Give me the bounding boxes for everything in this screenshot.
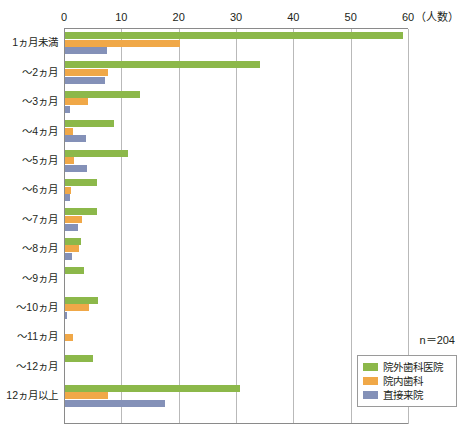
bar-5-2 xyxy=(65,194,70,201)
gridline-2 xyxy=(179,29,180,424)
bar-2-0 xyxy=(65,91,140,98)
gridline-3 xyxy=(236,29,237,424)
gridline-4 xyxy=(293,29,294,424)
bar-chart: 0102030405060（人数） 1ヵ月未満～2ヵ月～3ヵ月～4ヵ月～5ヵ月～… xyxy=(0,0,467,432)
category-label-0: 1ヵ月未満 xyxy=(0,36,58,48)
category-label-11: ～12ヵ月 xyxy=(0,360,58,372)
x-tick-label-2: 20 xyxy=(173,10,185,24)
category-label-4: ～5ヵ月 xyxy=(0,154,58,166)
bar-1-0 xyxy=(65,61,260,68)
legend-item-2: 直接来院 xyxy=(363,388,451,402)
x-axis-tick-labels: 0102030405060（人数） xyxy=(0,10,467,26)
bar-12-1 xyxy=(65,392,108,399)
x-tick-label-4: 40 xyxy=(287,10,299,24)
bar-0-0 xyxy=(65,32,403,39)
bar-9-0 xyxy=(65,297,98,304)
sample-size-note: n＝204 xyxy=(420,334,455,347)
category-label-3: ～4ヵ月 xyxy=(0,125,58,137)
bar-3-2 xyxy=(65,135,86,142)
category-label-10: ～11ヵ月 xyxy=(0,330,58,342)
bar-9-1 xyxy=(65,304,89,311)
bar-4-2 xyxy=(65,165,87,172)
legend-swatch-icon-1 xyxy=(363,377,378,385)
gridline-1 xyxy=(121,29,122,424)
bar-5-1 xyxy=(65,187,71,194)
category-label-5: ～6ヵ月 xyxy=(0,183,58,195)
x-tick-label-0: 0 xyxy=(61,10,67,24)
category-label-2: ～3ヵ月 xyxy=(0,95,58,107)
category-label-12: 12ヵ月以上 xyxy=(0,389,58,401)
bar-2-2 xyxy=(65,106,70,113)
x-tick-label-5: 50 xyxy=(345,10,357,24)
category-label-9: ～10ヵ月 xyxy=(0,301,58,313)
bar-8-0 xyxy=(65,267,84,274)
x-axis-unit-label: （人数） xyxy=(415,10,459,24)
gridline-5 xyxy=(351,29,352,424)
bar-3-1 xyxy=(65,128,73,135)
bar-1-2 xyxy=(65,77,105,84)
category-label-1: ～2ヵ月 xyxy=(0,66,58,78)
legend-swatch-icon-2 xyxy=(363,391,378,399)
x-axis-bottom-line xyxy=(64,423,408,424)
bar-11-0 xyxy=(65,355,93,362)
category-label-8: ～9ヵ月 xyxy=(0,272,58,284)
bar-0-2 xyxy=(65,47,107,54)
bar-2-1 xyxy=(65,98,88,105)
legend-item-1: 院内歯科 xyxy=(363,374,451,388)
legend-item-0: 院外歯科医院 xyxy=(363,360,451,374)
bar-10-1 xyxy=(65,334,73,341)
bar-4-1 xyxy=(65,157,74,164)
bar-0-1 xyxy=(65,40,180,47)
bar-7-1 xyxy=(65,245,79,252)
bar-12-2 xyxy=(65,400,165,407)
legend-label-2: 直接来院 xyxy=(383,389,423,401)
bar-3-0 xyxy=(65,120,114,127)
bar-7-2 xyxy=(65,253,72,260)
category-label-6: ～7ヵ月 xyxy=(0,213,58,225)
bar-5-0 xyxy=(65,179,97,186)
legend-label-1: 院内歯科 xyxy=(383,375,423,387)
bar-6-0 xyxy=(65,208,97,215)
x-tick-label-3: 30 xyxy=(230,10,242,24)
chart-legend: 院外歯科医院 院内歯科 直接来院 xyxy=(357,355,457,407)
x-tick-label-1: 10 xyxy=(115,10,127,24)
bar-12-0 xyxy=(65,385,240,392)
bar-7-0 xyxy=(65,238,81,245)
bar-6-1 xyxy=(65,216,82,223)
bar-6-2 xyxy=(65,224,78,231)
bar-4-0 xyxy=(65,150,128,157)
category-label-7: ～8ヵ月 xyxy=(0,242,58,254)
bar-1-1 xyxy=(65,69,108,76)
legend-label-0: 院外歯科医院 xyxy=(383,361,443,373)
legend-swatch-icon-0 xyxy=(363,363,378,371)
bar-9-2 xyxy=(65,312,67,319)
x-tick-label-6: 60 xyxy=(402,10,414,24)
